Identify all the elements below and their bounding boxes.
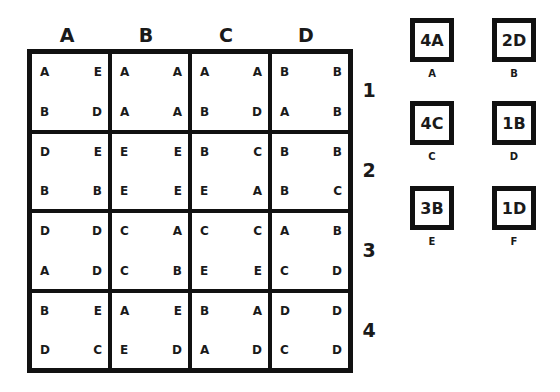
row-label-4: 4 (357, 319, 381, 341)
cell-letter: E (174, 305, 182, 317)
answer-label: C (408, 151, 456, 162)
cell-letter: A (173, 66, 182, 78)
cell-letter: A (120, 66, 129, 78)
answer-code: 2D (492, 18, 536, 62)
cell-letter: D (92, 225, 102, 237)
row-label-2: 2 (357, 159, 381, 181)
cell-letter: A (173, 106, 182, 118)
cell-letter: A (280, 106, 289, 118)
puzzle-grid: AEBD AAAA AABD BBAB DEBB EEEE BCEA BBBC … (27, 49, 353, 373)
cell-letter: C (120, 225, 129, 237)
cell-letter: B (280, 185, 289, 197)
cell-letter: C (200, 225, 209, 237)
cell-letter: D (252, 344, 262, 356)
cell-letter: D (172, 344, 182, 356)
column-label-d: D (266, 24, 346, 46)
answer-label: F (490, 236, 538, 247)
cell-letter: A (200, 344, 209, 356)
cell-letter: A (253, 185, 262, 197)
cell-letter: E (120, 344, 128, 356)
answer-label: E (408, 236, 456, 247)
cell-letter: A (40, 265, 49, 277)
cell-letter: B (200, 146, 209, 158)
cell-letter: C (253, 225, 262, 237)
cell-c3[interactable]: CCEE (192, 213, 268, 289)
cell-letter: B (200, 106, 209, 118)
cell-a3[interactable]: DDAD (32, 213, 108, 289)
cell-letter: E (94, 305, 102, 317)
answer-code: 1D (492, 186, 536, 230)
cell-a1[interactable]: AEBD (32, 54, 108, 130)
cell-b4[interactable]: AEED (112, 293, 188, 369)
cell-letter: B (40, 106, 49, 118)
answer-label: A (408, 68, 456, 79)
row-label-1: 1 (357, 79, 381, 101)
answer-label: B (490, 68, 538, 79)
cell-c1[interactable]: AABD (192, 54, 268, 130)
cell-d1[interactable]: BBAB (272, 54, 348, 130)
cell-d3[interactable]: ABCD (272, 213, 348, 289)
cell-letter: D (332, 344, 342, 356)
cell-letter: E (174, 185, 182, 197)
cell-a4[interactable]: BEDC (32, 293, 108, 369)
cell-b1[interactable]: AAAA (112, 54, 188, 130)
cell-letter: E (94, 146, 102, 158)
cell-letter: C (280, 265, 289, 277)
cell-letter: E (120, 146, 128, 158)
cell-letter: B (333, 106, 342, 118)
cell-letter: E (254, 265, 262, 277)
cell-letter: A (200, 66, 209, 78)
cell-letter: A (120, 305, 129, 317)
cell-letter: D (280, 305, 290, 317)
cell-letter: E (200, 185, 208, 197)
cell-d2[interactable]: BBBC (272, 134, 348, 210)
answer-option-c[interactable]: 4C C (408, 101, 456, 162)
answer-option-e[interactable]: 3B E (408, 186, 456, 247)
cell-letter: E (174, 146, 182, 158)
column-label-b: B (106, 24, 186, 46)
cell-letter: C (93, 344, 102, 356)
cell-letter: B (280, 146, 289, 158)
answer-code: 3B (410, 186, 454, 230)
cell-letter: A (173, 225, 182, 237)
column-label-c: C (186, 24, 266, 46)
cell-letter: D (40, 225, 50, 237)
cell-b3[interactable]: CACB (112, 213, 188, 289)
cell-letter: A (120, 106, 129, 118)
answer-option-f[interactable]: 1D F (490, 186, 538, 247)
cell-letter: C (280, 344, 289, 356)
answer-option-b[interactable]: 2D B (490, 18, 538, 79)
cell-letter: E (120, 185, 128, 197)
cell-a2[interactable]: DEBB (32, 134, 108, 210)
cell-letter: C (253, 146, 262, 158)
cell-letter: D (252, 106, 262, 118)
answer-option-d[interactable]: 1B D (490, 101, 538, 162)
cell-d4[interactable]: DDCD (272, 293, 348, 369)
cell-b2[interactable]: EEEE (112, 134, 188, 210)
cell-letter: E (200, 265, 208, 277)
answer-code: 4A (410, 18, 454, 62)
cell-letter: B (93, 185, 102, 197)
cell-letter: A (253, 305, 262, 317)
cell-letter: B (173, 265, 182, 277)
cell-letter: D (332, 265, 342, 277)
answer-code: 1B (492, 101, 536, 145)
row-label-3: 3 (357, 239, 381, 261)
cell-letter: D (92, 265, 102, 277)
cell-letter: A (40, 66, 49, 78)
column-label-a: A (27, 24, 107, 46)
cell-letter: B (333, 225, 342, 237)
cell-letter: B (40, 305, 49, 317)
cell-letter: A (280, 225, 289, 237)
cell-letter: B (333, 66, 342, 78)
cell-letter: B (40, 185, 49, 197)
cell-letter: B (280, 66, 289, 78)
cell-c4[interactable]: BAAD (192, 293, 268, 369)
answer-code: 4C (410, 101, 454, 145)
answer-label: D (490, 151, 538, 162)
answer-option-a[interactable]: 4A A (408, 18, 456, 79)
cell-c2[interactable]: BCEA (192, 134, 268, 210)
cell-letter: D (40, 146, 50, 158)
cell-letter: B (333, 146, 342, 158)
cell-letter: A (253, 66, 262, 78)
